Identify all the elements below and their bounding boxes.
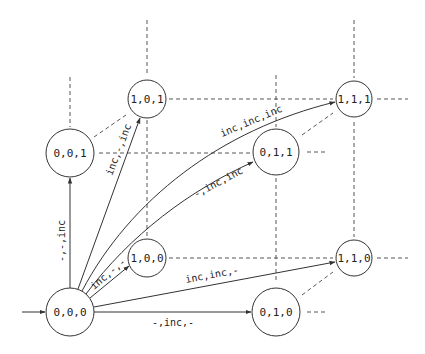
edge-label-000-001: -,-,inc	[56, 220, 67, 262]
state-node-100: 1,0,0	[128, 239, 166, 277]
edge-label-000-110: inc,inc,-	[184, 264, 239, 285]
state-label: 0,0,0	[53, 306, 86, 319]
state-node-110: 1,1,0	[336, 240, 372, 276]
edge-labels: -,-,inc inc,-,inc inc,inc,inc -,inc,inc …	[56, 103, 284, 328]
state-label: 0,1,0	[259, 306, 292, 319]
edge-label-000-010: -,inc,-	[152, 317, 194, 328]
state-node-101: 1,0,1	[128, 80, 166, 118]
state-node-011: 0,1,1	[253, 129, 299, 175]
state-node-111: 1,1,1	[336, 81, 372, 117]
edge-label-000-011: -,inc,inc	[192, 165, 245, 200]
state-label: 1,1,1	[337, 93, 370, 106]
edge-label-000-100: inc,-,-	[88, 256, 127, 292]
state-label: 0,0,1	[53, 147, 86, 160]
state-label: 1,1,0	[337, 252, 370, 265]
state-node-000: 0,0,0	[46, 288, 94, 336]
state-label: 1,0,0	[130, 252, 163, 265]
state-diagram: -,-,inc inc,-,inc inc,inc,inc -,inc,inc …	[0, 0, 425, 354]
state-label: 1,0,1	[130, 93, 163, 106]
state-node-001: 0,0,1	[46, 129, 94, 177]
state-label: 0,1,1	[259, 146, 292, 159]
state-node-010: 0,1,0	[252, 288, 300, 336]
